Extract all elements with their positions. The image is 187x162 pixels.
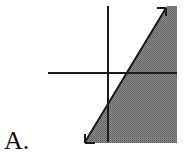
inequality-graph-figure: A. (0, 0, 187, 162)
option-label: A. (4, 128, 29, 154)
